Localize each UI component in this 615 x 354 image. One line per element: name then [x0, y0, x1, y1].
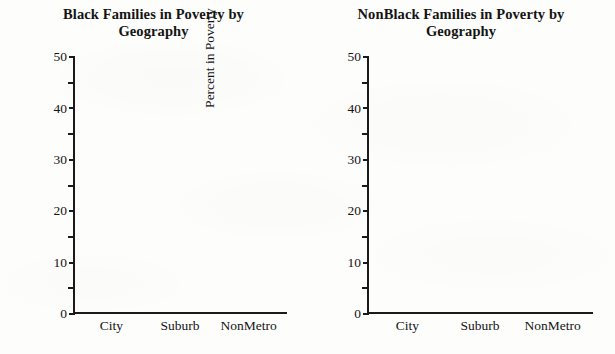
tick-mark-icon [362, 185, 369, 187]
tick-mark-icon [69, 313, 75, 315]
tick-mark-icon [363, 313, 369, 315]
tick-mark-icon [362, 287, 369, 289]
tick-mark-icon [68, 287, 75, 289]
axes-nonblack: Percent in Poverty 50 45 40 35 30 25 20 … [307, 0, 615, 354]
tick-mark-icon [69, 159, 75, 161]
tick-mark-icon [68, 82, 75, 84]
x-tick-label-city: City [371, 318, 444, 334]
tick-mark-icon [363, 56, 369, 58]
y-axis-title: Percent in Poverty [202, 0, 218, 191]
tick-mark-icon [68, 133, 75, 135]
x-tick-label-nonmetro: NonMetro [516, 318, 589, 334]
plot-area-nonblack: 50 45 40 35 30 25 20 15 10 5 0 [367, 57, 593, 314]
x-axis-labels-black: City Suburb NonMetro [73, 318, 287, 334]
chart-panel-black: Black Families in Poverty by Geography P… [0, 0, 307, 354]
tick-mark-icon [69, 262, 75, 264]
x-axis-labels-nonblack: City Suburb NonMetro [367, 318, 593, 334]
x-tick-label-suburb: Suburb [146, 318, 215, 334]
chart-panel-nonblack: NonBlack Families in Poverty by Geograph… [307, 0, 615, 354]
tick-mark-icon [363, 210, 369, 212]
tick-mark-icon [69, 107, 75, 109]
tick-mark-icon [362, 236, 369, 238]
tick-mark-icon [68, 236, 75, 238]
tick-mark-icon [362, 82, 369, 84]
plot-area-black: 50 45 40 35 30 25 20 15 10 5 0 [73, 57, 287, 314]
x-tick-label-nonmetro: NonMetro [214, 318, 283, 334]
axes-black: Percent in Poverty 50 45 40 35 30 25 20 … [0, 0, 307, 354]
tick-mark-icon [68, 185, 75, 187]
figure-canvas: Black Families in Poverty by Geography P… [0, 0, 615, 354]
tick-mark-icon [69, 56, 75, 58]
tick-mark-icon [363, 262, 369, 264]
tick-mark-icon [362, 133, 369, 135]
tick-mark-icon [363, 159, 369, 161]
tick-mark-icon [69, 210, 75, 212]
x-tick-label-city: City [77, 318, 146, 334]
tick-mark-icon [363, 107, 369, 109]
x-tick-label-suburb: Suburb [444, 318, 517, 334]
